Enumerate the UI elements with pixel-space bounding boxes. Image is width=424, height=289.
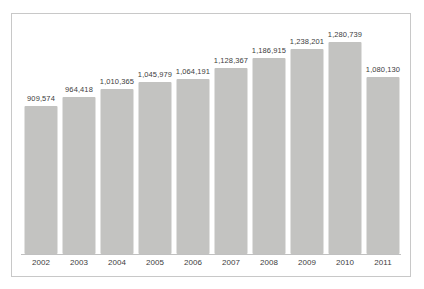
- bar-group: 964,418 2003: [60, 14, 98, 276]
- bar-2005[interactable]: [139, 82, 172, 254]
- x-tick-label: 2005: [146, 258, 164, 267]
- x-tick-label: 2007: [222, 258, 240, 267]
- bar-2008[interactable]: [253, 58, 286, 254]
- bar-2011[interactable]: [367, 77, 400, 254]
- bar-group: 1,080,130 2011: [364, 14, 402, 276]
- bar-2003[interactable]: [63, 97, 96, 254]
- bar-value-label: 1,045,979: [138, 70, 172, 79]
- bar-group: 1,186,915 2008: [250, 14, 288, 276]
- bar-value-label: 909,574: [27, 94, 55, 103]
- x-tick-label: 2008: [260, 258, 278, 267]
- bar-group: 909,574 2002: [22, 14, 60, 276]
- bar-group: 1,280,739 2010: [326, 14, 364, 276]
- bar-value-label: 1,064,191: [176, 67, 210, 76]
- x-tick-label: 2006: [184, 258, 202, 267]
- bar-value-label: 1,080,130: [366, 65, 400, 74]
- bar-value-label: 1,128,367: [214, 56, 248, 65]
- bar-value-label: 1,238,201: [290, 37, 324, 46]
- x-tick-label: 2011: [374, 258, 392, 267]
- bar-2002[interactable]: [25, 106, 58, 254]
- bar-2004[interactable]: [101, 89, 134, 254]
- bar-group: 1,128,367 2007: [212, 14, 250, 276]
- plot-area: 909,574 2002 964,418 2003 1,010,365 2004…: [12, 14, 410, 276]
- x-tick-label: 2010: [336, 258, 354, 267]
- bar-2009[interactable]: [291, 49, 324, 254]
- bar-value-label: 1,280,739: [328, 30, 362, 39]
- chart-figure: 909,574 2002 964,418 2003 1,010,365 2004…: [11, 13, 411, 277]
- x-tick-label: 2004: [108, 258, 126, 267]
- x-tick-label: 2002: [32, 258, 50, 267]
- bar-group: 1,064,191 2006: [174, 14, 212, 276]
- x-tick-label: 2003: [70, 258, 88, 267]
- bar-group: 1,045,979 2005: [136, 14, 174, 276]
- bar-value-label: 964,418: [65, 85, 93, 94]
- bar-value-label: 1,186,915: [252, 46, 286, 55]
- bar-2007[interactable]: [215, 68, 248, 254]
- x-tick-label: 2009: [298, 258, 316, 267]
- bar-2006[interactable]: [177, 79, 210, 254]
- bar-value-label: 1,010,365: [100, 77, 134, 86]
- bar-2010[interactable]: [329, 42, 362, 254]
- bar-group: 1,010,365 2004: [98, 14, 136, 276]
- bar-group: 1,238,201 2009: [288, 14, 326, 276]
